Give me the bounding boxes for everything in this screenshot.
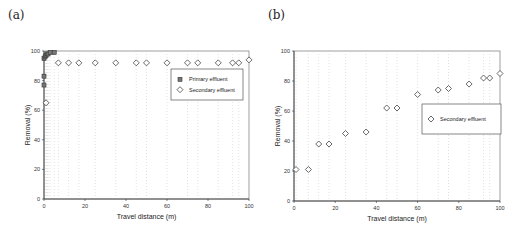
x-axis-label: Travel distance (m) xyxy=(117,213,177,221)
x-tick-label: 60 xyxy=(164,203,170,209)
x-tick-label: 100 xyxy=(495,205,504,211)
legend: Primary effluentSecondary effluent xyxy=(171,69,243,100)
y-axis-label: Removal (%) xyxy=(24,105,32,145)
x-tick-label: 20 xyxy=(332,205,338,211)
chart-a: 020406080100020406080100Travel distance … xyxy=(0,0,260,238)
legend-label: Secondary effluent xyxy=(189,87,235,93)
y-tick-label: 40 xyxy=(34,137,40,143)
x-tick-label: 80 xyxy=(205,203,211,209)
x-tick-label: 80 xyxy=(456,205,462,211)
x-tick-label: 60 xyxy=(415,205,421,211)
y-tick-label: 100 xyxy=(31,48,40,54)
y-tick-label: 20 xyxy=(284,168,290,174)
y-tick-label: 80 xyxy=(284,78,290,84)
x-tick-label: 0 xyxy=(42,203,45,209)
y-tick-label: 0 xyxy=(287,198,290,204)
x-tick-label: 20 xyxy=(82,203,88,209)
legend-label: Primary effluent xyxy=(189,76,228,82)
data-point-square xyxy=(178,77,182,81)
x-tick-label: 0 xyxy=(292,205,295,211)
y-tick-label: 0 xyxy=(37,196,40,202)
y-axis-label: Removal (%) xyxy=(274,106,282,146)
data-point-square xyxy=(42,83,46,87)
x-axis-label: Travel distance (m) xyxy=(367,215,427,223)
legend: Secondary effluent xyxy=(422,104,501,134)
data-point-square xyxy=(48,50,52,54)
x-tick-label: 40 xyxy=(373,205,379,211)
y-tick-label: 100 xyxy=(281,48,290,54)
legend-label: Secondary effluent xyxy=(440,116,486,122)
y-tick-label: 40 xyxy=(284,138,290,144)
x-tick-label: 100 xyxy=(244,203,253,209)
data-point-square xyxy=(42,74,46,78)
chart-b: 020406080100020406080100Travel distance … xyxy=(260,0,520,238)
data-point-square xyxy=(52,50,56,54)
y-tick-label: 60 xyxy=(34,107,40,113)
y-tick-label: 60 xyxy=(284,108,290,114)
y-tick-label: 80 xyxy=(34,78,40,84)
x-tick-label: 40 xyxy=(123,203,129,209)
y-tick-label: 20 xyxy=(34,166,40,172)
